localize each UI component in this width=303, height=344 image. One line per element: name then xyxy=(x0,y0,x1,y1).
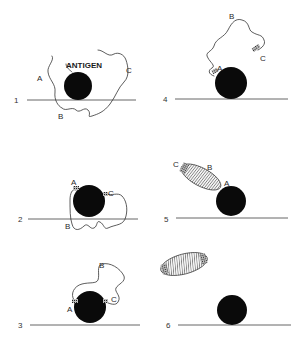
released-antibody xyxy=(158,248,210,280)
site-label-b: B xyxy=(65,222,70,231)
panel-2: 2 A B C xyxy=(18,178,138,231)
antigen-label: ANTIGEN xyxy=(66,61,102,70)
step-number: 3 xyxy=(18,321,23,330)
site-label-c: C xyxy=(111,295,117,304)
site-label-b: B xyxy=(58,112,63,121)
site-c-bound xyxy=(103,299,108,303)
step-number: 1 xyxy=(14,96,19,105)
site-label-a: A xyxy=(217,64,223,73)
site-label-b: B xyxy=(229,12,234,21)
site-label-b: B xyxy=(99,261,104,270)
site-label-c: C xyxy=(173,160,179,169)
site-a-bound xyxy=(72,299,78,303)
site-label-c: C xyxy=(126,66,132,75)
folded-antibody xyxy=(177,159,224,196)
panel-6: 6 xyxy=(158,248,291,330)
antigen xyxy=(216,186,246,216)
step-number: 6 xyxy=(166,321,171,330)
antigen xyxy=(64,72,92,100)
site-c-coiled xyxy=(252,44,261,52)
site-label-a: A xyxy=(71,178,77,187)
site-label-a: A xyxy=(67,305,73,314)
antigen xyxy=(74,291,106,323)
site-label-b: B xyxy=(207,163,212,172)
step-number: 4 xyxy=(163,95,168,104)
panel-1: 1 ANTIGEN A B C xyxy=(14,50,136,121)
panel-4: 4 A B C xyxy=(163,12,288,104)
antibody-folding-diagram: 1 ANTIGEN A B C 4 A B C 2 xyxy=(0,0,303,344)
site-label-c: C xyxy=(108,189,114,198)
panel-5: 5 A B C xyxy=(164,159,288,224)
step-number: 2 xyxy=(18,215,23,224)
step-number: 5 xyxy=(164,215,169,224)
panel-3: 3 A B C xyxy=(18,261,140,330)
site-label-c: C xyxy=(260,54,266,63)
site-label-a: A xyxy=(224,179,230,188)
site-label-a: A xyxy=(37,74,43,83)
antigen xyxy=(217,295,247,325)
